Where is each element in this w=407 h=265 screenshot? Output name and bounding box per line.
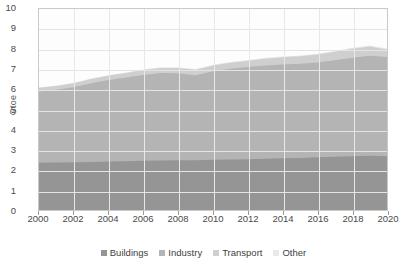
plot-inner [39,9,387,210]
plot-area [38,8,388,211]
gridline-horizontal [39,171,387,172]
gridline-horizontal [39,70,387,71]
legend-item-transport[interactable]: Transport [213,248,262,258]
gridline-horizontal [39,29,387,30]
gridline-vertical [179,9,180,210]
legend-swatch-icon [159,250,165,256]
legend-label: Buildings [110,248,149,258]
area-series-group [39,9,387,210]
y-tick-label: 5 [0,105,16,115]
gridline-vertical [319,9,320,210]
gridline-horizontal [39,50,387,51]
stacked-area-chart: Gtoe 012345678910 2000200220042006200820… [0,0,407,265]
y-tick-label: 1 [0,186,16,196]
y-tick-label: 8 [0,44,16,54]
y-tick-label: 3 [0,145,16,155]
legend-swatch-icon [101,250,107,256]
x-tick-label: 2016 [301,214,335,224]
gridline-horizontal [39,192,387,193]
y-tick-label: 4 [0,125,16,135]
x-tick-label: 2020 [371,214,405,224]
x-tick-label: 2004 [91,214,125,224]
gridline-vertical [354,9,355,210]
legend-item-buildings[interactable]: Buildings [101,248,149,258]
chart-legend: BuildingsIndustryTransportOther [0,248,407,258]
gridline-vertical [144,9,145,210]
x-tick-label: 2014 [266,214,300,224]
y-tick-label: 9 [0,24,16,34]
gridline-vertical [214,9,215,210]
gridline-horizontal [39,90,387,91]
y-tick-label: 2 [0,166,16,176]
gridline-vertical [249,9,250,210]
x-tick-label: 2000 [21,214,55,224]
x-tick-label: 2010 [196,214,230,224]
area-buildings [39,156,387,210]
gridline-horizontal [39,151,387,152]
gridline-horizontal [39,111,387,112]
gridline-vertical [109,9,110,210]
y-tick-label: 7 [0,64,16,74]
y-tick-label: 10 [0,3,16,13]
x-tick-label: 2008 [161,214,195,224]
legend-swatch-icon [213,250,219,256]
x-tick-label: 2006 [126,214,160,224]
legend-item-other[interactable]: Other [273,248,306,258]
legend-label: Other [282,248,306,258]
gridline-horizontal [39,131,387,132]
legend-item-industry[interactable]: Industry [159,248,202,258]
legend-label: Industry [168,248,202,258]
gridline-vertical [74,9,75,210]
x-tick-label: 2012 [231,214,265,224]
gridline-vertical [284,9,285,210]
y-tick-label: 6 [0,84,16,94]
x-tick-label: 2018 [336,214,370,224]
x-tick-label: 2002 [56,214,90,224]
legend-swatch-icon [273,250,279,256]
legend-label: Transport [222,248,262,258]
y-tick-label: 0 [0,206,16,216]
